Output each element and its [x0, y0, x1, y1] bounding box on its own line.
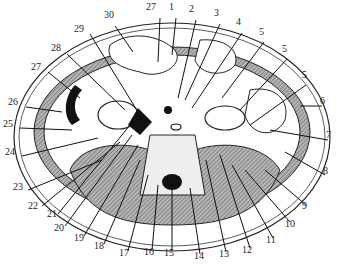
label-4: 4 — [236, 17, 241, 27]
label-22: 22 — [28, 201, 38, 211]
label-23: 23 — [13, 182, 23, 192]
vessel — [171, 124, 181, 130]
label-16: 16 — [144, 247, 154, 257]
label-7: 7 — [326, 130, 331, 140]
label-10: 10 — [285, 219, 295, 229]
label-26: 26 — [8, 97, 18, 107]
aorta — [164, 106, 172, 114]
label-2: 2 — [189, 4, 194, 14]
label-24: 24 — [5, 147, 15, 157]
left-kidney — [205, 106, 245, 130]
label-14: 14 — [194, 251, 204, 261]
label-27b: 27 — [146, 2, 156, 12]
label-21: 21 — [47, 209, 57, 219]
label-9: 9 — [302, 201, 307, 211]
label-27a: 27 — [31, 62, 41, 72]
label-13: 13 — [219, 249, 229, 259]
label-19: 19 — [74, 233, 84, 243]
label-11: 11 — [266, 235, 276, 245]
label-20: 20 — [54, 223, 64, 233]
label-8: 8 — [323, 166, 328, 176]
label-6: 6 — [320, 96, 325, 106]
label-18: 18 — [94, 241, 104, 251]
label-12: 12 — [242, 245, 252, 255]
label-5a: 5 — [259, 27, 264, 37]
label-15: 15 — [164, 248, 174, 258]
label-5c: 5 — [302, 70, 307, 80]
label-1: 1 — [169, 2, 174, 12]
label-30: 30 — [104, 10, 114, 20]
label-29: 29 — [74, 24, 84, 34]
label-28: 28 — [51, 43, 61, 53]
label-25: 25 — [3, 119, 13, 129]
spinal-canal — [162, 174, 182, 190]
label-5b: 5 — [282, 44, 287, 54]
label-17: 17 — [119, 248, 129, 258]
label-3: 3 — [214, 8, 219, 18]
